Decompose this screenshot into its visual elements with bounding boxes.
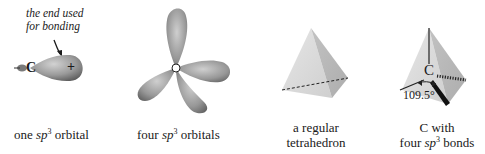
carbon-atom-label: C [424,62,434,79]
caption-tetrahedron: a regular tetrahedron [281,120,351,150]
tetrahedron-diagram [282,28,348,98]
carbon-nucleus [172,64,180,72]
caption-one-orbital: one sp3 orbital [14,127,89,142]
carbon-label: C [26,60,36,76]
caption-carbon-bonds: C with four sp3 bonds [392,120,482,150]
annotation-bonding-end: the end used for bonding [26,7,83,33]
phase-sign-plus: + [67,59,75,75]
annotation-line-2: for bonding [26,20,83,33]
four-orbitals-diagram [138,9,230,114]
lobe-right [176,60,230,82]
caption-four-orbitals: four sp3 orbitals [137,127,220,142]
lobe-left [138,68,176,101]
annotation-line-1: the end used [26,7,83,20]
lobe-up [166,9,187,69]
bond-angle-label: 109.5° [403,88,435,103]
